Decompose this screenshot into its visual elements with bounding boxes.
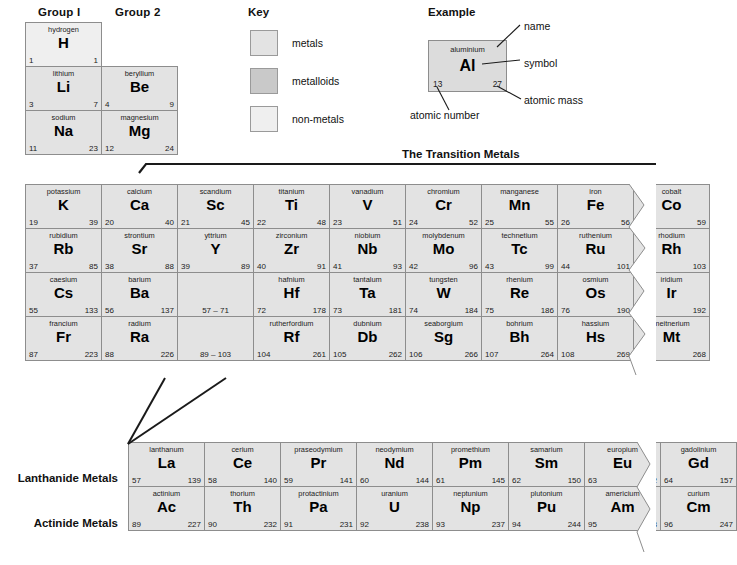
element-cell-fr[interactable]: franciumFr87223 [25,316,102,361]
element-atomic-mass: 178 [313,306,326,315]
element-cell-ac[interactable]: actiniumAc89227 [128,486,205,531]
element-cell-ir[interactable]: iridiumIr77192 [633,272,710,317]
element-atomic-mass: 269 [617,350,630,359]
key-label-non-metals: non-metals [292,113,344,125]
element-name: potassium [26,187,101,196]
element-cell-pr[interactable]: praseodymiumPr59141 [280,442,357,487]
element-name: yttrium [178,231,253,240]
element-cell-db[interactable]: dubniumDb105262 [329,316,406,361]
element-name: thorium [205,489,280,498]
element-cell-mg[interactable]: magnesiumMg1224 [101,110,178,155]
annotation-atomic-number: atomic number [410,109,479,121]
element-atomic-mass: 40 [165,218,174,227]
element-cell-sm[interactable]: samariumSm62150 [508,442,585,487]
element-symbol: Gd [661,454,736,472]
element-cell-bh[interactable]: bohriumBh107264 [481,316,558,361]
element-cell-eu[interactable]: europiumEu63152 [584,442,661,487]
element-cell-k[interactable]: potassiumK1939 [25,184,102,229]
element-cell-th[interactable]: thoriumTh90232 [204,486,281,531]
element-symbol: Sg [406,328,481,346]
element-cell-hf[interactable]: hafniumHf72178 [253,272,330,317]
element-atomic-mass: 48 [317,218,326,227]
element-cell-ca[interactable]: calciumCa2040 [101,184,178,229]
element-cell-mt[interactable]: meitneriumMt109268 [633,316,710,361]
element-cell-pu[interactable]: plutoniumPu94244 [508,486,585,531]
element-cell-nb[interactable]: niobiumNb4193 [329,228,406,273]
element-name: neptunium [433,489,508,498]
element-atomic-mass: 262 [389,350,402,359]
element-name: lanthanum [129,445,204,454]
element-symbol: Sr [102,240,177,258]
element-name: titanium [254,187,329,196]
element-cell-range[interactable]: 57 – 71 [177,272,254,317]
example-heading: Example [428,6,475,18]
element-cell-nd[interactable]: neodymiumNd60144 [356,442,433,487]
element-name: hydrogen [26,25,101,34]
element-cell-re[interactable]: rheniumRe75186 [481,272,558,317]
element-cell-ti[interactable]: titaniumTi2248 [253,184,330,229]
element-cell-ru[interactable]: rutheniumRu44101 [557,228,634,273]
element-cell-h[interactable]: hydrogenH11 [25,22,102,67]
element-symbol: Sc [178,196,253,214]
element-cell-ce[interactable]: ceriumCe58140 [204,442,281,487]
element-cell-hs[interactable]: hassiumHs108269 [557,316,634,361]
element-cell-li[interactable]: lithiumLi37 [25,66,102,111]
example-atomic-mass: 27 [493,79,502,89]
element-cell-fe[interactable]: ironFe2656 [557,184,634,229]
element-atomic-number: 108 [561,350,574,359]
element-atomic-mass: 145 [492,476,505,485]
element-cell-pm[interactable]: promethiumPm61145 [432,442,509,487]
element-cell-mn[interactable]: manganeseMn2555 [481,184,558,229]
element-atomic-number: 55 [29,306,38,315]
element-cell-gd[interactable]: gadoliniumGd64157 [660,442,737,487]
element-symbol: Be [102,78,177,96]
element-cell-ra[interactable]: radiumRa88226 [101,316,178,361]
element-atomic-number: 77 [637,306,646,315]
element-name: ruthenium [558,231,633,240]
element-symbol: Db [330,328,405,346]
element-cell-range[interactable]: 89 – 103 [177,316,254,361]
element-cell-zr[interactable]: zirconiumZr4091 [253,228,330,273]
element-cell-ba[interactable]: bariumBa56137 [101,272,178,317]
element-cell-be[interactable]: berylliumBe49 [101,66,178,111]
element-atomic-number: 88 [105,350,114,359]
element-cell-rb[interactable]: rubidiumRb3785 [25,228,102,273]
element-cell-cm[interactable]: curiumCm96247 [660,486,737,531]
element-atomic-number: 59 [284,476,293,485]
element-cell-sg[interactable]: seaborgiumSg106266 [405,316,482,361]
element-cell-v[interactable]: vanadiumV2351 [329,184,406,229]
element-cell-tc[interactable]: technetiumTc4399 [481,228,558,273]
element-atomic-number: 93 [436,520,445,529]
element-cell-mo[interactable]: molybdenumMo4296 [405,228,482,273]
element-cell-os[interactable]: osmiumOs76190 [557,272,634,317]
element-atomic-mass: 261 [313,350,326,359]
element-symbol: Mo [406,240,481,258]
element-cell-cs[interactable]: caesiumCs55133 [25,272,102,317]
element-atomic-number: 21 [181,218,190,227]
element-symbol: Os [558,284,633,302]
element-cell-y[interactable]: yttriumY3989 [177,228,254,273]
element-cell-pa[interactable]: protactiniumPa91231 [280,486,357,531]
element-cell-w[interactable]: tungstenW74184 [405,272,482,317]
element-atomic-mass: 85 [89,262,98,271]
element-cell-sr[interactable]: strontiumSr3888 [101,228,178,273]
element-cell-co[interactable]: cobaltCo2759 [633,184,710,229]
element-cell-na[interactable]: sodiumNa1123 [25,110,102,155]
element-symbol: Cs [26,284,101,302]
element-symbol: Nd [357,454,432,472]
element-cell-rf[interactable]: rutherfordiumRf104261 [253,316,330,361]
element-cell-am[interactable]: americiumAm95243 [584,486,661,531]
element-name: curium [661,489,736,498]
element-symbol: Cr [406,196,481,214]
element-cell-cr[interactable]: chromiumCr2452 [405,184,482,229]
element-cell-np[interactable]: neptuniumNp93237 [432,486,509,531]
element-atomic-mass: 264 [541,350,554,359]
element-cell-sc[interactable]: scandiumSc2145 [177,184,254,229]
element-cell-rh[interactable]: rhodiumRh45103 [633,228,710,273]
element-cell-ta[interactable]: tantalumTa73181 [329,272,406,317]
element-atomic-mass: 141 [340,476,353,485]
element-atomic-number: 38 [105,262,114,271]
element-cell-la[interactable]: lanthanumLa57139 [128,442,205,487]
element-cell-u[interactable]: uraniumU92238 [356,486,433,531]
element-atomic-mass: 140 [264,476,277,485]
